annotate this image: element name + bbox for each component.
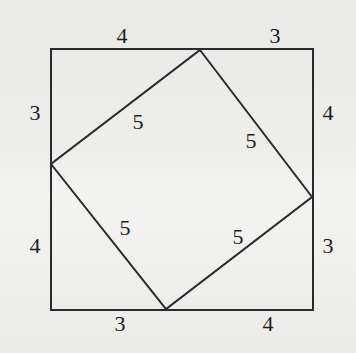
label-bottom-right-4: 4: [263, 311, 274, 336]
pythagorean-figure: 4 3 3 4 5 5 5 5 4 3 3 4: [0, 0, 356, 353]
label-bottom-left-3: 3: [115, 311, 126, 336]
diagram-canvas: 4 3 3 4 5 5 5 5 4 3 3 4: [0, 0, 356, 353]
label-right-lower-3: 3: [323, 233, 334, 258]
outer-square: [51, 49, 313, 310]
label-left-upper-3: 3: [30, 100, 41, 125]
label-hyp-lower-right-5: 5: [233, 224, 244, 249]
label-left-lower-4: 4: [30, 233, 41, 258]
label-hyp-upper-right-5: 5: [246, 128, 257, 153]
label-right-upper-4: 4: [323, 100, 334, 125]
label-top-right-3: 3: [270, 23, 281, 48]
label-hyp-lower-left-5: 5: [120, 215, 131, 240]
label-top-left-4: 4: [117, 23, 128, 48]
inner-tilted-square: [51, 50, 312, 309]
label-hyp-upper-left-5: 5: [133, 109, 144, 134]
